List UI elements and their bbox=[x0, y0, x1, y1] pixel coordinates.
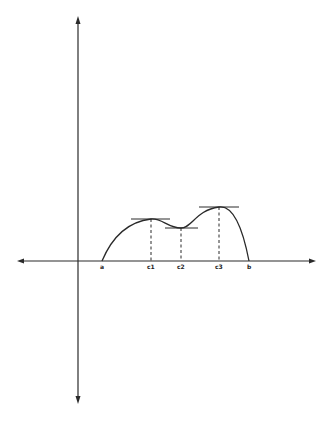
x-axis-right-arrow-icon bbox=[309, 259, 316, 264]
label-c3: c3 bbox=[215, 263, 223, 270]
x-axis bbox=[17, 259, 316, 264]
function-graph-diagram: a c1 c2 c3 b bbox=[0, 0, 335, 421]
label-a: a bbox=[100, 263, 104, 270]
label-b: b bbox=[247, 263, 252, 270]
label-c1: c1 bbox=[147, 263, 155, 270]
x-axis-left-arrow-icon bbox=[17, 259, 24, 264]
label-c2: c2 bbox=[177, 263, 185, 270]
y-axis-down-arrow-icon bbox=[76, 396, 81, 404]
y-axis-up-arrow-icon bbox=[76, 16, 81, 24]
y-axis bbox=[76, 16, 81, 404]
function-curve bbox=[102, 207, 249, 261]
